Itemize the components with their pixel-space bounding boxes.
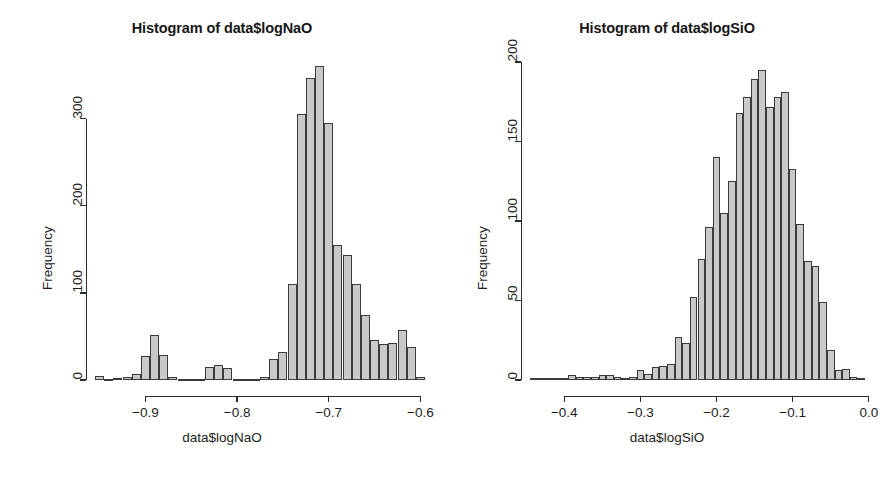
histogram-bar: [141, 356, 150, 380]
histogram-bar: [614, 377, 622, 380]
histogram-bar: [827, 350, 835, 380]
histogram-bar: [857, 378, 865, 380]
x-axis-tick-label: −0.9: [132, 405, 159, 420]
histogram-bar: [260, 377, 269, 380]
histogram-bar: [652, 367, 660, 380]
x-axis-tick: [868, 396, 869, 402]
y-axis-line: [521, 62, 522, 380]
x-axis-tick: [236, 396, 237, 402]
x-axis-tick-label: 0.0: [859, 405, 878, 420]
histogram-bar: [407, 347, 416, 380]
histogram-bar: [621, 378, 629, 380]
histogram-bar: [242, 379, 251, 381]
histogram-bar: [766, 107, 774, 380]
histogram-bar: [196, 379, 205, 381]
histogram-bar: [728, 181, 736, 380]
y-axis-tick: [515, 220, 521, 221]
x-axis-tick: [145, 396, 146, 402]
histogram-bar: [123, 377, 132, 380]
histogram-bar: [324, 123, 333, 380]
x-axis-tick: [420, 396, 421, 402]
histogram-bar: [835, 370, 843, 380]
histogram-bar: [629, 377, 637, 380]
histogram-bar: [675, 337, 683, 380]
histogram-bar: [297, 114, 306, 380]
histogram-bar: [315, 66, 324, 380]
x-axis-tick: [328, 396, 329, 402]
x-axis-tick: [792, 396, 793, 402]
histogram-bar: [104, 379, 113, 381]
plot-area-right: −0.4−0.3−0.2−0.10.0050100150200: [445, 0, 889, 478]
histogram-bar: [278, 352, 287, 380]
histogram-bar: [288, 284, 297, 380]
histogram-bar: [251, 379, 260, 381]
histogram-bar: [789, 169, 797, 380]
histogram-bar: [306, 78, 315, 380]
histogram-bar: [690, 297, 698, 380]
histogram-bar: [159, 355, 168, 380]
x-axis-tick: [564, 396, 565, 402]
histogram-bar: [370, 340, 379, 380]
histogram-bar: [819, 302, 827, 380]
x-axis-tick-label: −0.6: [407, 405, 434, 420]
y-axis-tick: [515, 379, 521, 380]
histogram-bar: [774, 97, 782, 380]
x-axis-label-right: data$logSiO: [445, 430, 889, 445]
x-axis-tick-label: −0.1: [779, 405, 806, 420]
x-axis-tick: [640, 396, 641, 402]
histogram-bar: [842, 369, 850, 380]
histogram-bar: [758, 70, 766, 380]
figure-canvas: Histogram of data$logNaO Frequency −0.9−…: [0, 0, 889, 478]
histogram-bar: [113, 378, 122, 380]
histogram-bar: [804, 261, 812, 380]
x-axis-tick-label: −0.7: [315, 405, 342, 420]
histogram-bar: [333, 245, 342, 380]
histogram-bar: [553, 378, 561, 380]
histogram-bar: [659, 366, 667, 380]
histogram-bar: [178, 379, 187, 381]
histogram-bar: [591, 377, 599, 380]
histogram-bar: [150, 335, 159, 380]
histogram-bar: [796, 224, 804, 380]
histogram-bar: [168, 377, 177, 380]
histogram-bar: [644, 374, 652, 380]
histogram-bar: [568, 375, 576, 380]
histogram-bar: [379, 344, 388, 380]
histogram-bar: [637, 370, 645, 380]
y-axis-line: [86, 119, 87, 380]
histogram-bar: [343, 255, 352, 380]
histogram-bar: [751, 79, 759, 380]
histogram-bar: [736, 113, 744, 380]
histogram-bar: [187, 379, 196, 381]
y-axis-tick: [515, 61, 521, 62]
histogram-bar: [538, 378, 546, 380]
histogram-bar: [560, 378, 568, 380]
histogram-bar: [682, 343, 690, 380]
plot-area-left: −0.9−0.8−0.7−0.60100200300: [0, 0, 444, 478]
histogram-bar: [583, 377, 591, 380]
histogram-bar: [545, 378, 553, 380]
histogram-bar: [850, 377, 858, 380]
histogram-bar: [698, 259, 706, 380]
x-axis-line: [145, 396, 420, 397]
histogram-bar: [576, 377, 584, 380]
histogram-bar: [416, 377, 425, 380]
x-axis-tick-label: −0.2: [703, 405, 730, 420]
histogram-bar: [388, 343, 397, 380]
x-axis-tick-label: −0.4: [551, 405, 578, 420]
histogram-bar: [214, 365, 223, 380]
x-axis-tick-label: −0.8: [224, 405, 251, 420]
histogram-bar: [398, 330, 407, 380]
histogram-bar: [530, 378, 538, 380]
histogram-panel-logsio: Histogram of data$logSiO Frequency −0.4−…: [445, 0, 889, 478]
x-axis-tick: [716, 396, 717, 402]
histogram-bar: [352, 284, 361, 380]
histogram-bar: [667, 364, 675, 380]
histogram-bar: [781, 92, 789, 380]
y-axis-tick: [80, 379, 86, 380]
histogram-bar: [233, 379, 242, 381]
histogram-bar: [223, 368, 232, 380]
histogram-bar: [606, 375, 614, 380]
histogram-bar: [743, 97, 751, 380]
histogram-bar: [713, 157, 721, 380]
